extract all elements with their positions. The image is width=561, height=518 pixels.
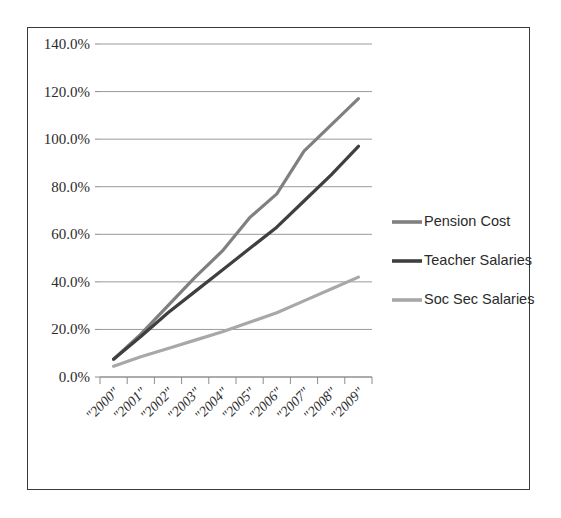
y-tick-label: 20.0% bbox=[51, 321, 90, 337]
series-line bbox=[114, 277, 359, 366]
legend-item: Pension Cost bbox=[392, 213, 510, 229]
line-chart-figure: 0.0%20.0%40.0%60.0%80.0%100.0%120.0%140.… bbox=[0, 0, 561, 518]
y-tick-label: 0.0% bbox=[59, 369, 90, 385]
chart-canvas: 0.0%20.0%40.0%60.0%80.0%100.0%120.0%140.… bbox=[0, 0, 561, 518]
x-axis-tick-marks bbox=[100, 377, 372, 384]
legend-item-label: Teacher Salaries bbox=[424, 252, 532, 268]
legend-item-label: Pension Cost bbox=[424, 213, 510, 229]
legend-item: Teacher Salaries bbox=[392, 252, 532, 268]
x-axis-tick-labels: "2000""2001""2002""2003""2004""2005""200… bbox=[83, 384, 367, 423]
legend-item: Soc Sec Salaries bbox=[392, 291, 534, 307]
y-tick-label: 60.0% bbox=[51, 226, 90, 242]
y-axis-tick-labels: 0.0%20.0%40.0%60.0%80.0%100.0%120.0%140.… bbox=[44, 36, 90, 385]
y-axis-tick-marks bbox=[95, 44, 100, 377]
chart-legend: Pension CostTeacher SalariesSoc Sec Sala… bbox=[392, 213, 534, 307]
y-tick-label: 120.0% bbox=[44, 84, 90, 100]
legend-item-label: Soc Sec Salaries bbox=[424, 291, 534, 307]
y-tick-label: 140.0% bbox=[44, 36, 90, 52]
series-line bbox=[114, 99, 359, 359]
y-tick-label: 80.0% bbox=[51, 179, 90, 195]
y-tick-label: 40.0% bbox=[51, 274, 90, 290]
y-tick-label: 100.0% bbox=[44, 131, 90, 147]
